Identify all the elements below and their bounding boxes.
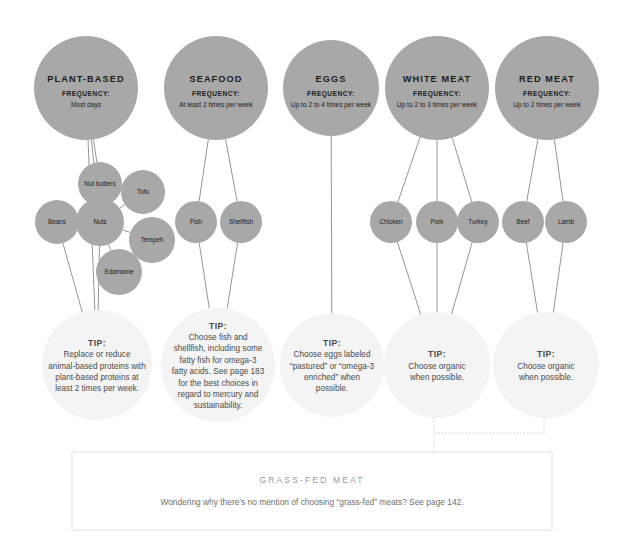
connector-line bbox=[109, 244, 111, 250]
tip-text-line: least 2 times per week. bbox=[55, 384, 139, 393]
category-bubble-white-meat[interactable]: WHITE MEATFREQUENCY:Up to 2 to 3 times p… bbox=[385, 36, 489, 140]
food-bubble-label: Tempeh bbox=[141, 236, 164, 244]
food-bubble-label: Nut butters bbox=[84, 180, 115, 187]
category-title: RED MEAT bbox=[519, 74, 575, 84]
connector-line bbox=[120, 205, 125, 209]
tip-text-line: when possible. bbox=[518, 373, 573, 382]
category-bubble-circle[interactable] bbox=[495, 36, 599, 140]
category-frequency-value: Up to 2 to 3 times per week bbox=[397, 101, 478, 109]
tip-heading: TIP: bbox=[88, 338, 106, 348]
category-title: WHITE MEAT bbox=[403, 74, 472, 84]
tip-bubbles-layer: TIP:Replace or reduceanimal-based protei… bbox=[42, 308, 599, 422]
tip-text-line: fatty fish for omega-3 bbox=[180, 356, 257, 365]
connector-line bbox=[226, 139, 238, 201]
protein-frequency-diagram: TIP:Replace or reduceanimal-based protei… bbox=[0, 0, 624, 552]
food-bubble-chicken[interactable]: Chicken bbox=[370, 201, 412, 243]
tip-text-line: “pastured” or “omega-3 bbox=[290, 362, 375, 371]
category-frequency-value: At least 2 times per week bbox=[179, 101, 253, 109]
tip-text-line: animal-based proteins with bbox=[48, 362, 146, 371]
food-bubble-fish[interactable]: Fish bbox=[175, 201, 217, 243]
tip-text-line: for the best choices in bbox=[178, 379, 258, 388]
tip-text-line: enriched” when bbox=[304, 373, 360, 382]
tip-bubble-white-meat: TIP:Choose organicwhen possible. bbox=[384, 312, 490, 418]
tip-text-line: Choose eggs labeled bbox=[294, 350, 371, 359]
category-frequency-label: FREQUENCY: bbox=[307, 90, 355, 98]
connector-line bbox=[227, 243, 238, 309]
tip-heading: TIP: bbox=[537, 349, 555, 359]
food-bubble-turkey[interactable]: Turkey bbox=[457, 201, 499, 243]
food-bubble-label: Beans bbox=[48, 218, 66, 225]
tip-heading: TIP: bbox=[323, 338, 341, 348]
connector-line bbox=[553, 243, 563, 313]
food-bubble-label: Turkey bbox=[468, 218, 488, 226]
category-bubbles-layer: PLANT-BASEDFREQUENCY:Most daysSEAFOODFRE… bbox=[34, 36, 599, 140]
food-bubble-label: Shellfish bbox=[229, 218, 254, 225]
category-bubble-plant-based[interactable]: PLANT-BASEDFREQUENCY:Most days bbox=[34, 36, 138, 140]
connector-line bbox=[452, 242, 473, 314]
tip-heading: TIP: bbox=[428, 349, 446, 359]
dotted-bracket bbox=[434, 417, 544, 433]
category-frequency-label: FREQUENCY: bbox=[62, 90, 110, 98]
connector-line bbox=[94, 139, 97, 162]
category-bubble-circle[interactable] bbox=[164, 36, 268, 140]
food-bubble-label: Fish bbox=[190, 218, 203, 225]
tip-text-line: fatty acids. See page 183 bbox=[172, 367, 265, 376]
category-frequency-value: Up to 2 times per week bbox=[513, 101, 581, 109]
food-bubbles-layer: Nut buttersTofuBeansNutsTempehEdamameFis… bbox=[35, 162, 587, 295]
category-bubble-red-meat[interactable]: RED MEATFREQUENCY:Up to 2 times per week bbox=[495, 36, 599, 140]
callout-box-layer: GRASS-FED MEATWondering why there’s no m… bbox=[72, 452, 552, 530]
category-title: PLANT-BASED bbox=[47, 74, 124, 84]
food-bubble-tofu[interactable]: Tofu bbox=[121, 170, 165, 214]
connector-line bbox=[526, 243, 537, 313]
food-bubble-shellfish[interactable]: Shellfish bbox=[220, 201, 262, 243]
connector-line bbox=[199, 243, 209, 309]
tip-bubble-plant-based: TIP:Replace or reduceanimal-based protei… bbox=[42, 310, 152, 420]
food-bubble-tempeh[interactable]: Tempeh bbox=[129, 217, 175, 263]
category-title: EGGS bbox=[316, 74, 347, 84]
infographic-canvas: TIP:Replace or reduceanimal-based protei… bbox=[0, 0, 624, 552]
category-frequency-label: FREQUENCY: bbox=[192, 90, 240, 98]
category-frequency-label: FREQUENCY: bbox=[523, 90, 571, 98]
callout-box-body: Wondering why there’s no mention of choo… bbox=[160, 497, 463, 507]
food-bubble-lamb[interactable]: Lamb bbox=[545, 201, 587, 243]
tip-text-line: Choose organic bbox=[408, 362, 465, 371]
tip-text-line: Choose fish and bbox=[188, 333, 248, 342]
connector-line bbox=[63, 243, 82, 312]
category-frequency-value: Up to 2 to 4 times per week bbox=[291, 101, 372, 109]
category-bubble-circle[interactable] bbox=[283, 40, 379, 136]
category-bubble-seafood[interactable]: SEAFOODFREQUENCY:At least 2 times per we… bbox=[164, 36, 268, 140]
tip-bubble-eggs: TIP:Choose eggs labeled“pastured” or “om… bbox=[280, 313, 384, 417]
category-frequency-value: Most days bbox=[71, 101, 102, 109]
category-bubble-circle[interactable] bbox=[385, 36, 489, 140]
category-title: SEAFOOD bbox=[189, 74, 242, 84]
food-bubble-label: Nuts bbox=[93, 218, 106, 225]
tip-text-line: Choose organic bbox=[517, 362, 574, 371]
connector-line bbox=[123, 230, 131, 233]
food-bubble-label: Edamame bbox=[104, 268, 134, 275]
tip-text-line: when possible. bbox=[409, 373, 464, 382]
food-bubble-edamame[interactable]: Edamame bbox=[96, 249, 142, 295]
tip-text-line: possible. bbox=[316, 384, 348, 393]
tip-bubble-red-meat: TIP:Choose organicwhen possible. bbox=[493, 312, 599, 418]
tip-heading: TIP: bbox=[209, 321, 227, 331]
connector-line bbox=[452, 138, 472, 202]
food-bubble-label: Lamb bbox=[558, 218, 574, 225]
tip-text-line: regard to mercury and bbox=[178, 390, 259, 399]
tip-text-line: Replace or reduce bbox=[64, 350, 131, 359]
food-bubble-nuts[interactable]: Nuts bbox=[76, 198, 124, 246]
category-bubble-eggs[interactable]: EGGSFREQUENCY:Up to 2 to 4 times per wee… bbox=[283, 40, 379, 136]
callout-box-title: GRASS-FED MEAT bbox=[259, 475, 364, 485]
food-bubble-beef[interactable]: Beef bbox=[502, 201, 544, 243]
food-bubble-label: Chicken bbox=[379, 218, 403, 225]
connector-line bbox=[398, 137, 420, 202]
connector-line bbox=[397, 242, 420, 315]
connector-line bbox=[554, 139, 563, 201]
connector-line bbox=[331, 136, 332, 313]
category-bubble-circle[interactable] bbox=[34, 36, 138, 140]
food-bubble-pork[interactable]: Pork bbox=[416, 201, 458, 243]
food-bubble-beans[interactable]: Beans bbox=[35, 200, 79, 244]
category-frequency-label: FREQUENCY: bbox=[413, 90, 461, 98]
tip-text-line: sustainability. bbox=[194, 401, 243, 410]
connector-line bbox=[527, 139, 538, 201]
food-bubble-label: Pork bbox=[430, 218, 444, 225]
